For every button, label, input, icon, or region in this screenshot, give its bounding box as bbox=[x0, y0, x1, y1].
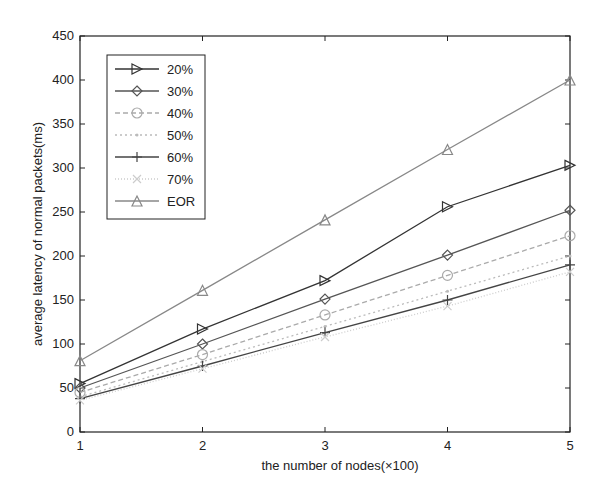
series-line bbox=[80, 236, 570, 393]
y-tick-label: 0 bbox=[67, 424, 74, 439]
x-axis-label: the number of nodes(×100) bbox=[261, 458, 418, 473]
legend-label: 70% bbox=[167, 172, 193, 187]
x-tick-label: 4 bbox=[444, 438, 451, 453]
x-tick-label: 3 bbox=[321, 438, 328, 453]
line-chart: 05010015020025030035040045012345 20%30%4… bbox=[0, 0, 605, 497]
dot-marker-icon bbox=[446, 290, 449, 293]
dot-marker-icon bbox=[569, 255, 572, 258]
legend-label: EOR bbox=[167, 194, 195, 209]
dot-marker-icon bbox=[324, 325, 327, 328]
y-tick-label: 300 bbox=[52, 160, 74, 175]
legend-label: 50% bbox=[167, 128, 193, 143]
x-tick-label: 5 bbox=[566, 438, 573, 453]
plus-marker-icon bbox=[75, 394, 85, 404]
plus-marker-icon bbox=[320, 328, 330, 338]
x-tick-label: 1 bbox=[76, 438, 83, 453]
legend: 20%30%40%50%60%70%EOR bbox=[107, 55, 205, 219]
y-tick-label: 150 bbox=[52, 292, 74, 307]
legend-label: 40% bbox=[167, 106, 193, 121]
x-tick-label: 2 bbox=[199, 438, 206, 453]
series-40% bbox=[75, 231, 575, 398]
series-30% bbox=[75, 205, 575, 393]
legend-label: 20% bbox=[167, 62, 193, 77]
y-tick-label: 50 bbox=[60, 380, 74, 395]
series-line bbox=[80, 210, 570, 388]
dot-marker-icon bbox=[136, 134, 139, 137]
y-axis-label: average latency of normal packets(ms) bbox=[30, 122, 45, 346]
y-tick-label: 200 bbox=[52, 248, 74, 263]
series-50% bbox=[79, 255, 572, 399]
y-tick-label: 250 bbox=[52, 204, 74, 219]
legend-label: 60% bbox=[167, 150, 193, 165]
y-tick-label: 400 bbox=[52, 72, 74, 87]
y-tick-label: 450 bbox=[52, 28, 74, 43]
y-tick-label: 350 bbox=[52, 116, 74, 131]
y-tick-label: 100 bbox=[52, 336, 74, 351]
legend-label: 30% bbox=[167, 84, 193, 99]
plus-marker-icon bbox=[198, 361, 208, 371]
